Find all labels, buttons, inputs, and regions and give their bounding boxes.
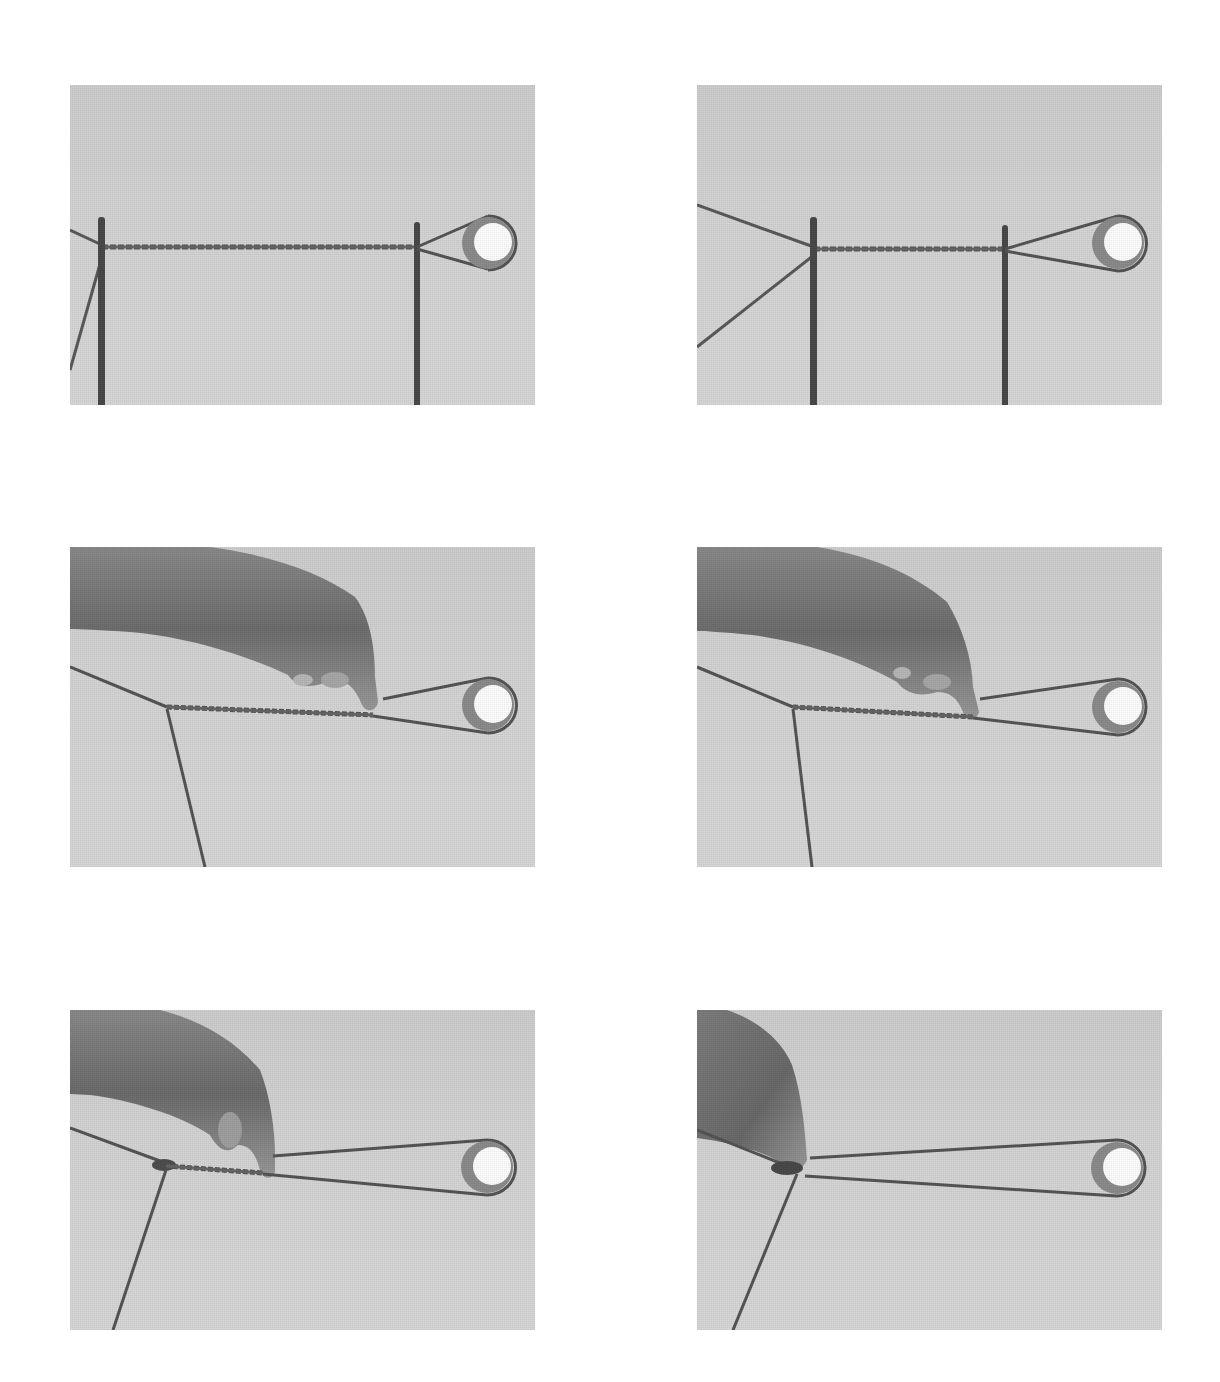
loop-top — [273, 1140, 487, 1156]
finger-highlight — [218, 1112, 242, 1148]
loop-top — [810, 1140, 1117, 1158]
loop-bottom — [263, 1174, 487, 1195]
pulley-face — [1103, 1148, 1141, 1186]
hand — [697, 547, 979, 719]
strand-down — [113, 1170, 166, 1330]
left-post — [98, 217, 105, 405]
photo-step-1 — [70, 85, 535, 405]
strand-down — [167, 709, 205, 867]
strand-upper — [697, 205, 814, 247]
strand-left — [70, 667, 167, 707]
pulley-face — [1104, 687, 1142, 725]
junction-knot — [771, 1161, 803, 1175]
photo-step-5 — [70, 1010, 535, 1330]
pulley-face — [473, 1147, 511, 1185]
strand-lower — [697, 255, 814, 347]
strand-down — [733, 1174, 797, 1330]
strand-left — [70, 1128, 160, 1161]
loop-bottom — [805, 1176, 1117, 1196]
pulley-face — [474, 685, 512, 723]
photo-step-6 — [697, 1010, 1162, 1330]
knuckle-highlight — [293, 674, 313, 686]
strand-down — [793, 709, 812, 867]
left-post — [810, 217, 817, 405]
knuckle-highlight — [893, 667, 911, 679]
hand — [70, 1010, 275, 1178]
pulley-face — [474, 223, 512, 261]
strand-upper — [70, 230, 102, 245]
step-6-illustration — [697, 1010, 1162, 1330]
step-1-illustration — [70, 85, 535, 405]
photo-step-2 — [697, 85, 1162, 405]
step-3-illustration — [70, 547, 535, 867]
step-5-illustration — [70, 1010, 535, 1330]
photo-step-4 — [697, 547, 1162, 867]
step-2-illustration — [697, 85, 1162, 405]
hand — [697, 1010, 807, 1169]
strand-left — [697, 667, 793, 707]
photo-step-3 — [70, 547, 535, 867]
strand-lower — [70, 257, 102, 370]
pulley-face — [1104, 223, 1142, 261]
step-4-illustration — [697, 547, 1162, 867]
